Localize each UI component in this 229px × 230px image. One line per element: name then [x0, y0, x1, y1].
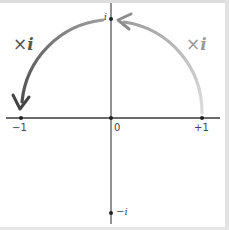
label-i: i [104, 13, 107, 22]
point-neg-i [109, 211, 113, 215]
point-neg-one [19, 116, 23, 120]
point-pos-one [200, 116, 204, 120]
label-neg-one: −1 [12, 123, 27, 133]
point-origin [109, 116, 113, 120]
multiply-sign: × [13, 34, 27, 54]
complex-plane-diagram: −1 0 +1 i −i ×i ×i [0, 0, 229, 230]
left-rotation-arc [22, 20, 103, 102]
label-neg-i: −i [116, 207, 128, 217]
label-zero: 0 [114, 123, 120, 133]
imaginary-unit: i [200, 34, 206, 54]
left-multiply-label: ×i [13, 36, 34, 53]
point-i [109, 17, 113, 21]
multiply-sign: × [186, 34, 200, 54]
imaginary-unit: i [27, 34, 33, 54]
label-pos-one: +1 [194, 123, 209, 133]
right-multiply-label: ×i [186, 36, 207, 53]
